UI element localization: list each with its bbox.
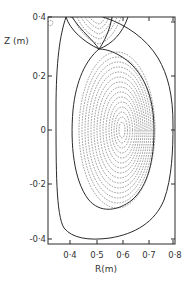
y-tick-label: 0·4 (32, 12, 46, 22)
x-tick-label: 0·8 (168, 250, 182, 260)
x-tick-label: 0·6 (116, 250, 130, 260)
separatrix-leg (99, 17, 128, 49)
corner-contour (48, 21, 53, 26)
x-tick-label: 0·5 (90, 250, 104, 260)
y-tick-label: -0·4 (29, 234, 46, 244)
x-axis-labels: 0·4 0·5 0·6 0·7 0·8 (63, 250, 182, 260)
x-axis-title: R(m) (95, 264, 117, 274)
y-axis-title: Z (m) (4, 36, 29, 46)
y-tick-label: 0·2 (32, 71, 46, 81)
y-axis-labels: 0·4 0·2 0 -0·2 -0·4 (29, 12, 46, 244)
x-tick-label: 0·7 (142, 250, 156, 260)
y-tick-label: 0 (41, 125, 46, 135)
x-tick-label: 0·4 (63, 250, 77, 260)
separatrix-leg (99, 17, 112, 49)
flux-surface-plot: 0·4 0·2 0 -0·2 -0·4 Z (m) 0·4 0·5 0·6 0·… (0, 0, 194, 284)
outer-flux-surface (56, 15, 173, 239)
y-tick-label: -0·2 (29, 179, 46, 189)
x-axis-ticks (70, 17, 173, 244)
